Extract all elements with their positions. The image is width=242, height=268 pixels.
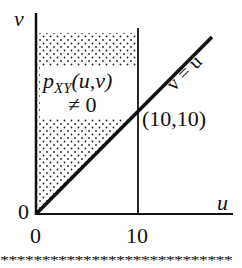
point-10-10-label: (10,10): [142, 106, 206, 131]
y-tick-0: 0: [18, 199, 29, 224]
x-tick-10: 10: [126, 223, 148, 248]
footer-stars: ****************************: [0, 252, 232, 267]
diagram-canvas: v u 0 0 10 pXY(u,v) ≠ 0 v = u (10,10) **…: [0, 0, 242, 268]
shaded-region: [37, 33, 138, 213]
v-equals-u-label: v = u: [161, 50, 206, 95]
u-axis-label: u: [217, 190, 228, 215]
region-condition: ≠ 0: [68, 92, 97, 117]
x-tick-0: 0: [30, 223, 41, 248]
v-axis-label: v: [14, 6, 24, 31]
